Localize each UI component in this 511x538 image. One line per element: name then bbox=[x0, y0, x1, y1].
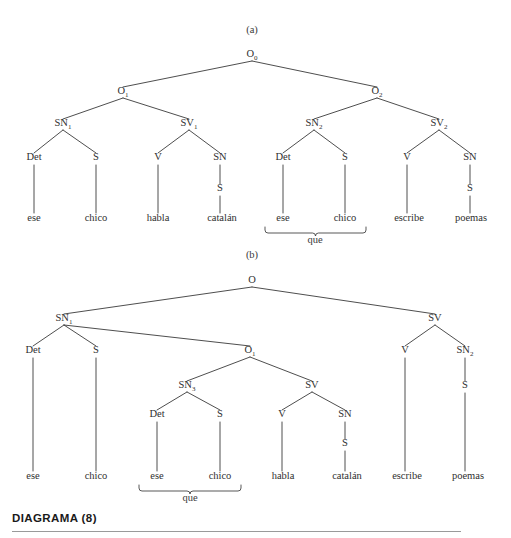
tree-edge bbox=[407, 130, 439, 153]
tree-leaf-word: catalán bbox=[332, 470, 362, 481]
tree-node-det: Det bbox=[275, 151, 290, 162]
tree-leaf-word: chico bbox=[85, 470, 108, 481]
tree-edge bbox=[33, 325, 64, 346]
tree-edge bbox=[187, 357, 250, 381]
tree-edge bbox=[405, 325, 435, 346]
tree-node-s: S bbox=[342, 437, 348, 448]
tree-node-det: Det bbox=[26, 151, 41, 162]
tree-node-s: S bbox=[342, 151, 348, 162]
tree-node-sn3: SN3 bbox=[179, 379, 196, 393]
tree-leaf-word: habla bbox=[272, 470, 295, 481]
tree-leaf-word: ese bbox=[27, 212, 41, 223]
tree-node-o0: O0 bbox=[246, 48, 258, 62]
figure-caption: DIAGRAMA (8) bbox=[12, 512, 97, 524]
tree-node-s: S bbox=[217, 408, 223, 419]
tree-node-v: V bbox=[154, 151, 162, 162]
tree-edge bbox=[63, 98, 123, 119]
tree-leaf-word: poemas bbox=[452, 470, 484, 481]
tree-edge bbox=[250, 357, 312, 381]
tree-edge bbox=[123, 61, 252, 87]
tree-node-o1: O1 bbox=[117, 85, 129, 99]
tree-node-sn: SN bbox=[338, 408, 352, 419]
tree-node-s: S bbox=[462, 379, 468, 390]
tree-node-sn1: SN1 bbox=[56, 312, 73, 326]
tree-edge bbox=[158, 130, 189, 153]
tree-leaf-word: ese bbox=[150, 470, 164, 481]
tree-edge bbox=[314, 130, 345, 153]
tree-leaf-word: ese bbox=[26, 470, 40, 481]
tree-node-sv: SV bbox=[428, 312, 442, 323]
tree-leaf-word: chico bbox=[85, 212, 108, 223]
tree-node-v: V bbox=[278, 408, 286, 419]
diagram-page: (a)O0O1O2SN1SV1SN2SV2DetSVSNDetSVSNSSese… bbox=[0, 0, 511, 538]
tree-edge bbox=[439, 130, 470, 153]
tree-edge bbox=[314, 98, 377, 119]
panel-label: (b) bbox=[246, 249, 259, 261]
tree-leaf-word: escribe bbox=[394, 212, 424, 223]
tree-node-det: Det bbox=[25, 344, 40, 355]
tree-node-sv2: SV2 bbox=[431, 117, 448, 131]
tree-edge bbox=[435, 325, 465, 346]
tree-leaf-word: escribe bbox=[392, 470, 422, 481]
tree-node-o1: O1 bbox=[244, 344, 256, 358]
tree-node-sn2: SN2 bbox=[457, 344, 474, 358]
tree-edge bbox=[377, 98, 439, 119]
tree-node-o2: O2 bbox=[371, 85, 383, 99]
tree-node-s: S bbox=[93, 344, 99, 355]
tree-node-sn: SN bbox=[463, 151, 477, 162]
syntax-tree-canvas: (a)O0O1O2SN1SV1SN2SV2DetSVSNDetSVSNSSese… bbox=[0, 0, 511, 538]
tree-edge bbox=[123, 98, 189, 119]
tree-edge bbox=[252, 287, 435, 314]
tree-leaf-word: poemas bbox=[455, 212, 487, 223]
tree-edge bbox=[282, 392, 312, 410]
tree-node-v: V bbox=[403, 151, 411, 162]
tree-leaf-word: chico bbox=[334, 212, 357, 223]
tree-node-s: S bbox=[467, 182, 473, 193]
tree-node-sv: SV bbox=[305, 379, 319, 390]
tree-leaf-word: habla bbox=[147, 212, 170, 223]
tree-node-v: V bbox=[401, 344, 409, 355]
caption-divider bbox=[12, 531, 461, 532]
tree-node-sv1: SV1 bbox=[181, 117, 198, 131]
tree-node-o: O bbox=[248, 274, 256, 285]
panel-label: (a) bbox=[246, 24, 258, 36]
tree-edge bbox=[252, 61, 377, 87]
tree-node-sn: SN bbox=[213, 151, 227, 162]
tree-node-sn1: SN1 bbox=[55, 117, 72, 131]
brace-label: que bbox=[307, 234, 323, 245]
tree-node-s: S bbox=[217, 182, 223, 193]
brace-label: que bbox=[182, 492, 198, 503]
tree-leaf-word: chico bbox=[209, 470, 232, 481]
tree-edge bbox=[64, 287, 252, 314]
panel-a: (a)O0O1O2SN1SV1SN2SV2DetSVSNDetSVSNSSese… bbox=[26, 24, 487, 245]
tree-leaf-word: catalán bbox=[207, 212, 237, 223]
tree-leaf-word: ese bbox=[276, 212, 290, 223]
tree-node-s: S bbox=[93, 151, 99, 162]
tree-edge bbox=[63, 130, 96, 153]
tree-node-det: Det bbox=[149, 408, 164, 419]
tree-edge bbox=[283, 130, 314, 153]
tree-edge bbox=[187, 392, 220, 410]
tree-edge bbox=[34, 130, 63, 153]
panel-b: (b)OSN1SVDetSO1VSN2SN3SVSDetSVSNSesechic… bbox=[25, 249, 484, 503]
tree-edge bbox=[189, 130, 220, 153]
tree-node-sn2: SN2 bbox=[306, 117, 323, 131]
